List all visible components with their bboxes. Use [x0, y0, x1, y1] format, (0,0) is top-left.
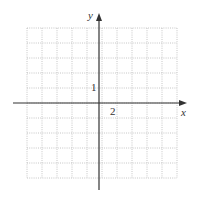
coordinate-plane [0, 0, 197, 200]
y-axis-arrow-icon [96, 13, 102, 21]
x-tick-label: 2 [110, 106, 116, 117]
x-axis-label: x [181, 107, 186, 118]
y-axis-label: y [88, 10, 93, 21]
y-tick-label: 1 [91, 82, 97, 93]
